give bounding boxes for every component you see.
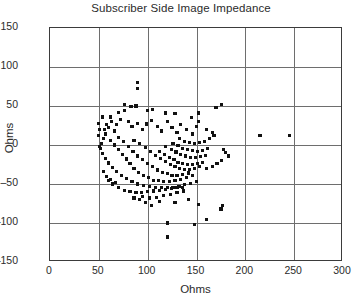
scatter-point	[168, 180, 171, 183]
scatter-point	[211, 131, 214, 134]
scatter-point	[134, 191, 137, 194]
scatter-point	[156, 168, 159, 171]
scatter-point	[148, 185, 151, 188]
scatter-point	[164, 111, 167, 114]
scatter-point	[104, 132, 107, 135]
scatter-point	[170, 174, 173, 177]
scatter-point	[119, 118, 122, 121]
scatter-point	[122, 140, 125, 143]
scatter-point	[109, 115, 112, 118]
scatter-point	[128, 190, 131, 193]
scatter-point	[141, 195, 144, 198]
scatter-point	[205, 128, 208, 131]
x-axis-tick-label: 150	[176, 264, 216, 276]
scatter-point	[160, 129, 163, 132]
scatter-point	[103, 128, 106, 131]
scatter-point	[125, 177, 128, 180]
scatter-point	[144, 146, 147, 149]
scatter-point	[162, 194, 165, 197]
scatter-point	[221, 204, 224, 207]
scatter-point	[189, 156, 192, 159]
scatter-point	[194, 156, 197, 159]
scatter-point	[258, 134, 261, 137]
scatter-point	[175, 174, 178, 177]
scatter-point	[189, 182, 192, 185]
scatter-point	[98, 145, 101, 148]
scatter-point	[203, 140, 206, 143]
scatter-point	[141, 158, 144, 161]
scatter-point	[173, 201, 176, 204]
scatter-point	[164, 145, 167, 148]
scatter-point	[117, 186, 120, 189]
scatter-point	[169, 163, 172, 166]
x-axis-tick-label: 50	[78, 264, 118, 276]
scatter-point	[97, 134, 100, 137]
scatter-point	[127, 145, 130, 148]
scatter-point	[132, 196, 135, 199]
scatter-point	[193, 167, 196, 170]
scatter-point	[105, 123, 108, 126]
x-axis-label: Ohms	[49, 283, 342, 295]
scatter-point	[97, 122, 100, 125]
scatter-point	[136, 81, 139, 84]
scatter-point	[188, 168, 191, 171]
scatter-point	[146, 109, 149, 112]
scatter-point	[128, 162, 131, 165]
scatter-point	[205, 167, 208, 170]
scatter-point	[109, 178, 112, 181]
scatter-point	[178, 167, 181, 170]
scatter-point	[164, 188, 167, 191]
scatter-point	[156, 125, 159, 128]
y-axis-label: Ohms	[3, 108, 15, 168]
scatter-point	[137, 171, 140, 174]
scatter-point	[150, 119, 153, 122]
scatter-point	[145, 122, 148, 125]
scatter-point	[127, 120, 130, 123]
scatter-point	[130, 125, 133, 128]
scatter-point	[158, 200, 161, 203]
scatter-point	[158, 150, 161, 153]
scatter-point	[215, 162, 218, 165]
scatter-point	[115, 170, 118, 173]
scatter-point	[181, 173, 184, 176]
scatter-point	[175, 186, 178, 189]
y-axis-tick-label: 150	[0, 20, 18, 32]
scatter-point	[146, 190, 149, 193]
scatter-point	[164, 160, 167, 163]
scatter-point	[101, 115, 104, 118]
scatter-point	[169, 193, 172, 196]
scatter-point	[138, 198, 141, 201]
scatter-point	[198, 141, 201, 144]
scatter-point	[148, 196, 151, 199]
scatter-point	[117, 111, 120, 114]
scatter-point	[179, 178, 182, 181]
scatter-point	[191, 149, 194, 152]
scatter-point	[158, 189, 161, 192]
scatter-point	[104, 157, 107, 160]
scatter-point	[125, 157, 128, 160]
scatter-point	[161, 171, 164, 174]
scatter-point	[183, 140, 186, 143]
scatter-point	[186, 163, 189, 166]
scatter-point	[187, 198, 190, 201]
scatter-point	[114, 181, 117, 184]
scatter-point	[195, 125, 198, 128]
scatter-point	[190, 116, 193, 119]
scatter-point	[144, 201, 147, 204]
scatter-point	[183, 168, 186, 171]
scatter-point	[181, 186, 184, 189]
scatter-point	[181, 162, 184, 165]
x-axis-tick-label: 0	[29, 264, 69, 276]
scatter-point	[159, 157, 162, 160]
scatter-point	[196, 162, 199, 165]
scatter-point	[123, 189, 126, 192]
scatter-point	[121, 153, 124, 156]
scatter-point	[288, 134, 291, 137]
scatter-point	[155, 196, 158, 199]
scatter-point	[191, 163, 194, 166]
y-axis-tick-label: –50	[0, 176, 18, 188]
scatter-point	[197, 203, 200, 206]
scatter-point	[166, 221, 169, 224]
scatter-point	[110, 120, 113, 123]
x-axis-tick-label: 250	[273, 264, 313, 276]
